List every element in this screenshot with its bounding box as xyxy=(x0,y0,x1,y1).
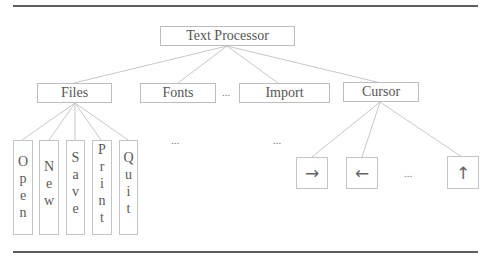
arrow-up-icon: ↑ xyxy=(456,163,470,183)
cursor-children-ellipsis: ... xyxy=(404,167,412,179)
fonts-label: Fonts xyxy=(162,85,193,101)
letter: Q xyxy=(123,149,133,166)
leaf-new: N e w xyxy=(39,140,59,235)
letter: S xyxy=(72,149,80,166)
root-label: Text Processor xyxy=(186,28,269,44)
letter: e xyxy=(46,175,52,192)
arrow-left-node: ← xyxy=(346,157,378,189)
fonts-children-ellipsis: ... xyxy=(171,134,179,146)
letter: i xyxy=(127,183,131,200)
node-files: Files xyxy=(37,83,112,103)
files-label: Files xyxy=(61,85,88,101)
letter: P xyxy=(98,141,106,158)
import-label: Import xyxy=(265,85,303,101)
letter: t xyxy=(127,200,131,217)
letter: i xyxy=(100,175,104,192)
letter: p xyxy=(20,170,27,187)
arrow-up-node: ↑ xyxy=(447,156,479,189)
node-import: Import xyxy=(239,83,330,103)
letter: n xyxy=(99,192,106,209)
arrow-right-icon: → xyxy=(305,163,319,183)
letter: t xyxy=(100,209,104,226)
level1-ellipsis: ... xyxy=(222,86,230,98)
leaf-print: P r i n t xyxy=(92,140,112,235)
letter: N xyxy=(44,158,54,175)
node-cursor: Cursor xyxy=(343,82,419,102)
letter: n xyxy=(20,204,27,221)
letter: O xyxy=(18,153,28,170)
leaf-open: O p e n xyxy=(13,140,33,235)
cursor-label: Cursor xyxy=(362,84,400,100)
arrow-left-icon: ← xyxy=(355,163,369,183)
letter: e xyxy=(20,187,26,204)
letter: u xyxy=(125,166,132,183)
letter: w xyxy=(44,192,54,209)
letter: e xyxy=(72,200,78,217)
root-node-text-processor: Text Processor xyxy=(160,26,295,46)
leaf-quit: Q u i t xyxy=(119,140,138,235)
leaf-save: S a v e xyxy=(66,140,85,235)
import-children-ellipsis: ... xyxy=(273,134,281,146)
letter: v xyxy=(72,183,79,200)
letter: r xyxy=(100,158,105,175)
arrow-right-node: → xyxy=(296,157,328,189)
node-fonts: Fonts xyxy=(140,83,216,103)
letter: a xyxy=(72,166,78,183)
